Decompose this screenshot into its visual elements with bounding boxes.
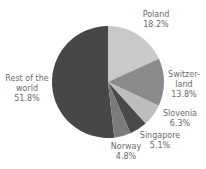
label-switzerland-value: 13.8% <box>164 90 204 100</box>
label-switzerland-name-2: land <box>164 80 204 90</box>
label-rest-of-the-world: Rest of the world 51.8% <box>2 74 52 104</box>
label-switzerland-name-1: Switzer- <box>164 70 204 80</box>
label-poland-value: 18.2% <box>136 20 176 30</box>
label-slovenia-name: Slovenia <box>158 109 202 119</box>
label-rest-name-2: world <box>2 84 52 94</box>
label-norway: Norway 4.8% <box>106 142 146 162</box>
label-poland: Poland 18.2% <box>136 10 176 30</box>
label-norway-value: 4.8% <box>106 152 146 162</box>
label-slovenia-value: 6.3% <box>158 119 202 129</box>
label-poland-name: Poland <box>136 10 176 20</box>
label-switzerland: Switzer- land 13.8% <box>164 70 204 100</box>
label-singapore-name: Singapore <box>136 131 184 141</box>
label-rest-name-1: Rest of the <box>2 74 52 84</box>
slice-rest-of-the-world <box>52 26 114 138</box>
label-rest-value: 51.8% <box>2 94 52 104</box>
label-slovenia: Slovenia 6.3% <box>158 109 202 129</box>
label-norway-name: Norway <box>106 142 146 152</box>
